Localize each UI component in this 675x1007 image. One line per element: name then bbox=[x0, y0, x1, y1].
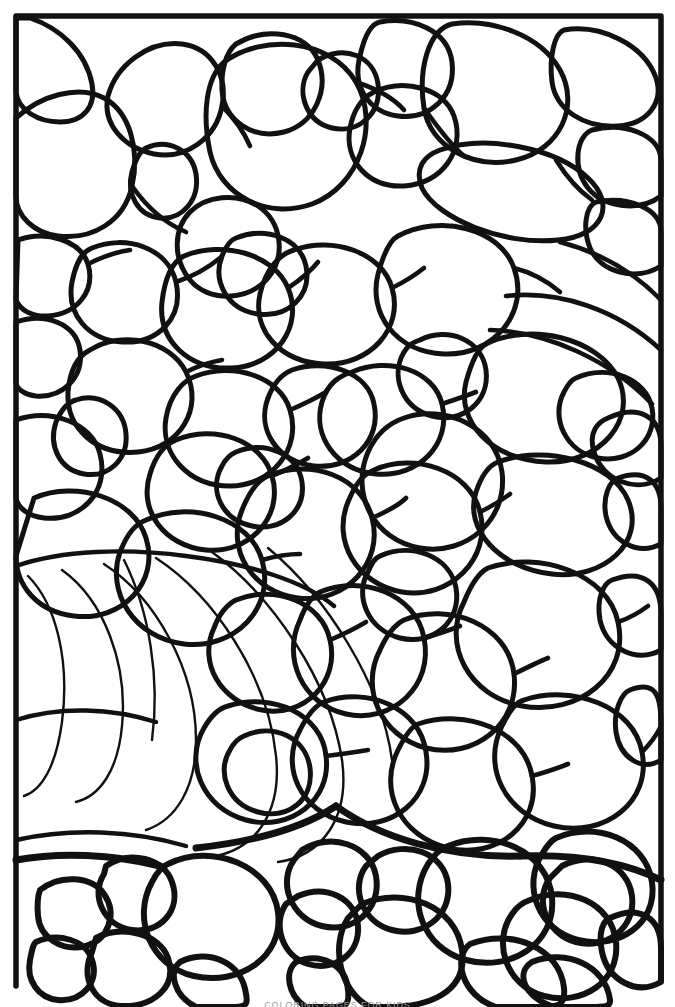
coloring-page: COLORING PAGES FOR KIDS bbox=[0, 0, 675, 1007]
page-caption: COLORING PAGES FOR KIDS bbox=[0, 1000, 675, 1007]
artwork-canvas bbox=[0, 0, 675, 1007]
line-art-svg bbox=[0, 0, 675, 1007]
